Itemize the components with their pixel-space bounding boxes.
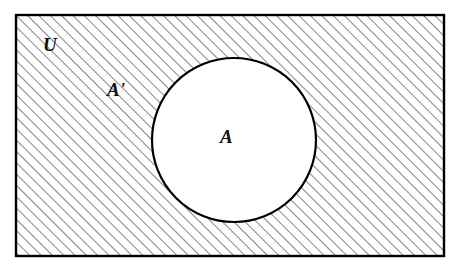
set-a-label: A	[220, 127, 233, 146]
venn-diagram-figure: U A' A	[0, 0, 461, 274]
universal-set-label: U	[43, 35, 57, 54]
complement-set-label: A'	[107, 80, 125, 99]
